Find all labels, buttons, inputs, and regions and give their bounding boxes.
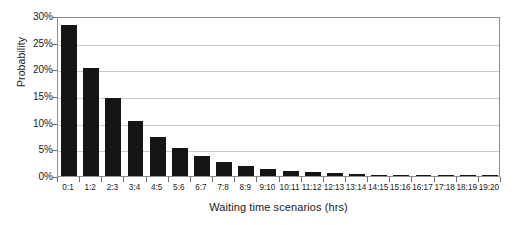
- bar: [438, 175, 454, 176]
- bar: [327, 173, 343, 176]
- x-axis-tick-mark: [434, 177, 435, 182]
- bar: [172, 148, 188, 176]
- x-axis-tick-mark: [500, 177, 501, 182]
- bar: [460, 175, 476, 176]
- y-axis-tick-label: 20%: [13, 65, 53, 75]
- x-axis-tick-label: 1:2: [85, 184, 96, 192]
- y-axis-tick-label: 15%: [13, 92, 53, 102]
- x-axis-tick-label: 6:7: [195, 184, 206, 192]
- bar: [128, 121, 144, 176]
- bar: [283, 171, 299, 176]
- x-axis-tick-label: 14:15: [368, 184, 389, 192]
- x-axis-tick-label: 8:9: [240, 184, 251, 192]
- x-axis-tick-label: 0:1: [62, 184, 73, 192]
- y-axis-tick-label: 30%: [13, 12, 53, 22]
- bar: [482, 175, 498, 176]
- y-axis-tick-label: 0%: [13, 172, 53, 182]
- bar: [393, 175, 409, 176]
- y-axis-tick-label: 10%: [13, 119, 53, 129]
- x-axis-tick-mark: [79, 177, 80, 182]
- x-axis-tick-label: 16:17: [412, 184, 433, 192]
- x-axis-tick-mark: [101, 177, 102, 182]
- x-axis-tick-mark: [123, 177, 124, 182]
- x-axis-tick-mark: [323, 177, 324, 182]
- x-axis-tick-mark: [478, 177, 479, 182]
- bar: [238, 166, 254, 176]
- bar: [150, 137, 166, 176]
- gridline: [58, 125, 499, 126]
- x-axis-tick-mark: [190, 177, 191, 182]
- x-axis-tick-label: 10:11: [280, 184, 300, 192]
- y-axis-tick-label: 5%: [13, 145, 53, 155]
- x-axis-tick-label: 12:13: [324, 184, 345, 192]
- x-axis-tick-mark: [146, 177, 147, 182]
- x-axis-tick-label: 4:5: [151, 184, 162, 192]
- x-axis-tick-mark: [456, 177, 457, 182]
- x-axis-tick-mark: [212, 177, 213, 182]
- x-axis-tick-mark: [389, 177, 390, 182]
- plot-area: [57, 17, 500, 177]
- probability-bar-chart: Probability 0%5%10%15%20%25%30% 0:11:22:…: [0, 0, 516, 225]
- x-axis-tick-mark: [168, 177, 169, 182]
- bar: [260, 169, 276, 176]
- bar: [416, 175, 432, 176]
- bar: [305, 172, 321, 176]
- x-axis-tick-label: 5:6: [173, 184, 184, 192]
- x-axis-tick-label: 11:12: [302, 184, 322, 192]
- x-axis-tick-label: 18:19: [457, 184, 478, 192]
- bar: [194, 156, 210, 176]
- x-axis-tick-label: 9:10: [259, 184, 275, 192]
- bar: [371, 175, 387, 176]
- x-axis-tick-label: 13:14: [346, 184, 367, 192]
- x-axis-tick-mark: [57, 177, 58, 182]
- x-axis-tick-mark: [411, 177, 412, 182]
- bar: [61, 25, 77, 176]
- x-axis-tick-label: 2:3: [107, 184, 118, 192]
- gridline: [58, 71, 499, 72]
- x-axis-tick-label: 3:4: [129, 184, 140, 192]
- x-axis-tick-label: 15:16: [390, 184, 411, 192]
- bar: [105, 98, 121, 176]
- x-axis-tick-mark: [256, 177, 257, 182]
- x-axis-tick-label: 19:20: [479, 184, 500, 192]
- x-axis-tick-mark: [345, 177, 346, 182]
- gridline: [58, 45, 499, 46]
- bar: [83, 68, 99, 176]
- x-axis-tick-mark: [234, 177, 235, 182]
- bar: [216, 162, 232, 176]
- x-axis-tick-mark: [367, 177, 368, 182]
- x-axis-title: Waiting time scenarios (hrs): [57, 201, 500, 213]
- x-axis-tick-label: 17:18: [434, 184, 455, 192]
- y-axis-tick-label: 25%: [13, 39, 53, 49]
- bar: [349, 174, 365, 176]
- x-axis-tick-label: 7:8: [217, 184, 228, 192]
- gridline: [58, 151, 499, 152]
- gridline: [58, 98, 499, 99]
- x-axis-tick-mark: [279, 177, 280, 182]
- x-axis-tick-mark: [301, 177, 302, 182]
